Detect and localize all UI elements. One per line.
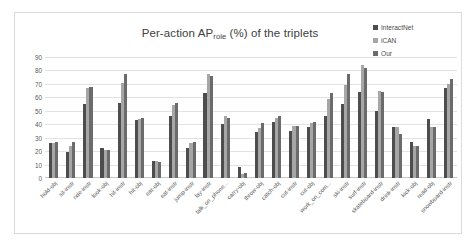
bar[interactable]	[450, 79, 453, 178]
bar[interactable]	[124, 74, 127, 178]
bar[interactable]	[193, 142, 196, 178]
x-axis-label-cell: work_on_com...	[320, 179, 337, 239]
bar-group	[200, 57, 217, 178]
x-axis-label-cell: carry-obj	[234, 179, 251, 239]
legend-swatch-icon	[373, 51, 378, 56]
chart-legend: InteractNetiCANOur	[373, 21, 445, 60]
x-axis-label-cell: throw-obj	[251, 179, 268, 239]
x-axis-label-cell: hold-obj	[45, 179, 62, 239]
chart-title-tail: (%) of the triplets	[226, 27, 318, 39]
legend-item-ican[interactable]: iCAN	[373, 34, 445, 47]
chart-title: Per-action AProle (%) of the triplets	[75, 27, 385, 39]
bar-group	[423, 57, 440, 178]
bar-group	[285, 57, 302, 178]
x-axis-label-cell: drink-instr	[388, 179, 405, 239]
y-axis-tick-label: 0	[38, 175, 42, 182]
bar[interactable]	[158, 162, 161, 178]
x-axis-label-cell: eat-obj	[148, 179, 165, 239]
x-axis-label-cell: talk_on_phone...	[217, 179, 234, 239]
bar[interactable]	[55, 142, 58, 178]
y-axis-tick-label: 50	[35, 107, 42, 114]
bar-group	[148, 57, 165, 178]
y-axis-tick-label: 60	[35, 94, 42, 101]
bar[interactable]	[89, 87, 92, 178]
bar[interactable]	[227, 118, 230, 179]
bar[interactable]	[416, 146, 419, 178]
bar[interactable]	[210, 76, 213, 178]
x-axis-tick-label: hit-obj	[128, 180, 144, 196]
bar[interactable]	[381, 92, 384, 178]
bar-group	[354, 57, 371, 178]
bar[interactable]	[347, 74, 350, 178]
y-axis-tick-label: 30	[35, 134, 42, 141]
bar[interactable]	[364, 68, 367, 178]
plot-area: 0102030405060708090	[45, 57, 457, 178]
bar-group	[251, 57, 268, 178]
bar[interactable]	[175, 103, 178, 178]
bar-group	[182, 57, 199, 178]
chart-container: Per-action AProle (%) of the triplets In…	[14, 12, 462, 234]
x-axis-label-cell: eat-instr	[165, 179, 182, 239]
bar[interactable]	[141, 118, 144, 179]
x-axis-label-cell: catch-obj	[268, 179, 285, 239]
chart-title-subscript: role	[213, 32, 226, 41]
legend-item-interactnet[interactable]: InteractNet	[373, 21, 445, 34]
x-axis-label-cell: snowboard-instr	[440, 179, 457, 239]
bar-group	[79, 57, 96, 178]
x-axis-labels: hold-objsit-instrride-instrlook-objhit-i…	[45, 179, 457, 239]
x-axis-tick-label: hold-obj	[39, 180, 58, 199]
legend-swatch-icon	[373, 38, 378, 43]
bar-groups	[45, 57, 457, 178]
bar-group	[440, 57, 457, 178]
chart-title-main: Per-action AP	[142, 27, 214, 39]
bar[interactable]	[107, 150, 110, 178]
bar-group	[371, 57, 388, 178]
bar-group	[234, 57, 251, 178]
bar[interactable]	[72, 142, 75, 178]
bar[interactable]	[399, 134, 402, 178]
y-axis-tick-label: 10	[35, 161, 42, 168]
legend-item-label: iCAN	[381, 37, 396, 44]
y-axis-tick-label: 80	[35, 67, 42, 74]
bar-group	[131, 57, 148, 178]
bar[interactable]	[296, 126, 299, 178]
bar-group	[388, 57, 405, 178]
legend-item-label: InteractNet	[381, 24, 413, 31]
x-axis-label-cell: hit-obj	[131, 179, 148, 239]
x-axis-label-cell: ride-instr	[79, 179, 96, 239]
y-axis-tick-label: 20	[35, 148, 42, 155]
bar-group	[45, 57, 62, 178]
bar-group	[320, 57, 337, 178]
bar-group	[303, 57, 320, 178]
x-axis-label-cell: sit-instr	[62, 179, 79, 239]
bar-group	[165, 57, 182, 178]
legend-swatch-icon	[373, 25, 378, 30]
x-axis-label-cell: hit-instr	[114, 179, 131, 239]
y-axis-tick-label: 40	[35, 121, 42, 128]
x-axis-label-cell: skateboard-instr	[371, 179, 388, 239]
bar-group	[217, 57, 234, 178]
x-axis-label-cell: look-obj	[97, 179, 114, 239]
bar[interactable]	[278, 116, 281, 178]
y-axis-tick-label: 90	[35, 54, 42, 61]
bar[interactable]	[261, 123, 264, 178]
bar-group	[114, 57, 131, 178]
bar[interactable]	[313, 122, 316, 178]
bar[interactable]	[433, 127, 436, 178]
bar-group	[62, 57, 79, 178]
bar-group	[406, 57, 423, 178]
bar-group	[337, 57, 354, 178]
bar-group	[97, 57, 114, 178]
bar[interactable]	[244, 173, 247, 178]
bar[interactable]	[330, 93, 333, 178]
y-axis-tick-label: 70	[35, 80, 42, 87]
bar-group	[268, 57, 285, 178]
legend-item-label: Our	[381, 50, 392, 57]
